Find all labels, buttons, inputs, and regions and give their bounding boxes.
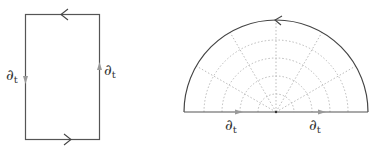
- arrow-down-icon: [23, 76, 28, 84]
- rect-right-label: ∂t: [104, 61, 116, 80]
- semicircle-contour: ∂t ∂t: [184, 16, 368, 135]
- rect-left-label: ∂t: [6, 66, 18, 85]
- arrow-up-icon: [97, 62, 102, 70]
- semi-right-label: ∂t: [309, 116, 321, 135]
- semi-left-label: ∂t: [225, 116, 237, 135]
- rectangle-contour: ∂t ∂t: [6, 9, 116, 145]
- diagram-canvas: ∂t ∂t ∂t ∂t: [0, 0, 377, 151]
- arrow-right-icon: [318, 110, 326, 115]
- arrow-right-icon: [235, 110, 243, 115]
